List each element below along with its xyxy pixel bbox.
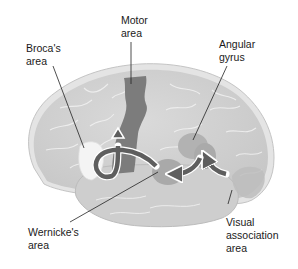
label-wernicke-area: Wernicke's area: [28, 226, 79, 252]
label-visual-line1: Visual: [226, 216, 279, 229]
label-angular-line2: gyrus: [219, 51, 255, 64]
label-motor-line1: Motor: [121, 14, 148, 27]
label-angular-gyrus: Angular gyrus: [219, 38, 255, 64]
label-visual-association-area: Visual association area: [226, 216, 279, 255]
label-motor-area: Motor area: [121, 14, 148, 40]
label-broca-line2: area: [26, 55, 61, 68]
label-broca-area: Broca's area: [26, 42, 61, 68]
label-visual-line3: area: [226, 242, 279, 255]
label-wernicke-line2: area: [28, 239, 79, 252]
brain-language-pathway-diagram: Motor area Broca's area Angular gyrus We…: [0, 0, 298, 269]
label-angular-line1: Angular: [219, 38, 255, 51]
label-visual-line2: association: [226, 229, 279, 242]
label-broca-line1: Broca's: [26, 42, 61, 55]
label-motor-line2: area: [121, 27, 148, 40]
label-wernicke-line1: Wernicke's: [28, 226, 79, 239]
